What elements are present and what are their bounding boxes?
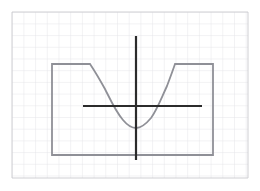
graph-canvas	[0, 0, 260, 191]
plot-svg	[0, 0, 260, 191]
